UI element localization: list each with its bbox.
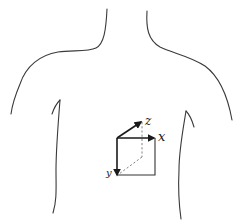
hidden-edge-diagonal: [119, 157, 142, 174]
right-torso-line: [179, 111, 186, 219]
x-axis-label: x: [158, 129, 166, 144]
projection-box: [117, 138, 155, 175]
y-axis-label: y: [105, 167, 112, 178]
torso-diagram: x y z: [0, 0, 240, 224]
coordinate-system: x y z: [105, 114, 166, 178]
z-axis-arrow: [117, 122, 141, 138]
body-outline: [11, 9, 232, 219]
z-axis-label: z: [144, 114, 152, 128]
right-armpit-hook: [186, 111, 194, 127]
left-neck-shoulder-line: [11, 9, 107, 114]
right-neck-shoulder-line: [147, 11, 232, 120]
left-torso-line: [53, 100, 60, 213]
